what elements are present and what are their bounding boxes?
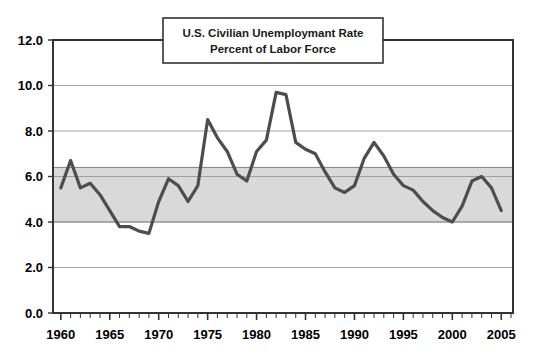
unemployment-rate-chart: 0.02.04.06.08.010.012.0 1960196519701975…: [0, 0, 535, 360]
y-axis-ticks: 0.02.04.06.08.010.012.0: [18, 33, 53, 321]
shaded-band-fill: [53, 167, 513, 222]
chart-canvas: 0.02.04.06.08.010.012.0 1960196519701975…: [0, 0, 535, 360]
chart-subtitle: Percent of Labor Force: [210, 43, 336, 55]
y-tick-label: 6.0: [25, 169, 43, 184]
x-tick-label: 1975: [193, 327, 222, 342]
shaded-band: [53, 167, 513, 222]
x-axis-ticks: 1960196519701975198019851990199520002005: [46, 313, 515, 342]
x-tick-label: 1970: [144, 327, 173, 342]
chart-title-box-border: [163, 18, 383, 63]
x-tick-label: 1995: [389, 327, 418, 342]
y-tick-label: 2.0: [25, 260, 43, 275]
y-tick-label: 8.0: [25, 124, 43, 139]
y-tick-label: 10.0: [18, 78, 43, 93]
x-tick-label: 1960: [46, 327, 75, 342]
chart-title-box: U.S. Civilian Unemploymant Rate Percent …: [163, 18, 383, 63]
y-tick-label: 0.0: [25, 306, 43, 321]
x-tick-label: 1990: [340, 327, 369, 342]
x-tick-label: 2005: [487, 327, 516, 342]
x-tick-label: 1965: [95, 327, 124, 342]
chart-title: U.S. Civilian Unemploymant Rate: [183, 27, 364, 39]
x-tick-label: 1985: [291, 327, 320, 342]
y-tick-label: 4.0: [25, 215, 43, 230]
y-tick-label: 12.0: [18, 33, 43, 48]
x-tick-label: 2000: [438, 327, 467, 342]
x-tick-label: 1980: [242, 327, 271, 342]
